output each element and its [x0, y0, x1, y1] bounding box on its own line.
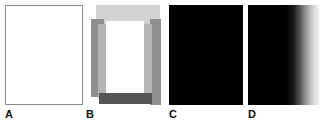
block-interior-white — [106, 21, 144, 98]
panel-label-a: A — [5, 108, 13, 121]
panel-b-grey-frame — [88, 5, 160, 105]
panel-d-gradient-rectangle — [248, 5, 321, 105]
block-bottom-dark-band — [99, 93, 152, 104]
panel-c-black-rectangle — [169, 5, 243, 105]
panel-label-b: B — [86, 108, 94, 121]
four-panel-figure: A B C D — [0, 0, 326, 127]
block-right-bar-overlay — [144, 24, 152, 98]
panel-label-c: C — [169, 108, 177, 121]
gradient-fill — [248, 5, 321, 105]
panel-label-d: D — [248, 108, 256, 121]
block-left-bar-overlay — [98, 24, 106, 98]
panel-a-white-rectangle — [5, 5, 83, 105]
